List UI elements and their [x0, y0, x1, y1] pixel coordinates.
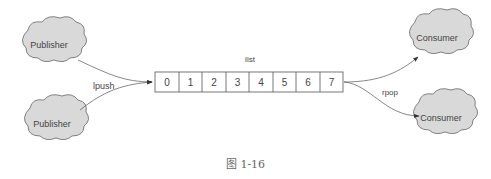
consumer-cloud-2: Consumer — [413, 89, 477, 134]
list-cell-7: 7 — [329, 77, 335, 88]
list-cell-5: 5 — [282, 77, 288, 88]
list-title: list — [245, 55, 256, 64]
lpush-label: lpush — [93, 81, 115, 91]
list-cell-4: 4 — [258, 77, 264, 88]
list-box: 0 1 2 3 4 5 6 7 — [155, 72, 343, 92]
list-cell-0: 0 — [164, 77, 170, 88]
list-cell-2: 2 — [211, 77, 217, 88]
edge-publisher1-to-list — [78, 60, 152, 82]
publisher-label-1: Publisher — [30, 40, 68, 50]
rpop-label: rpop — [382, 88, 399, 97]
consumer-label-1: Consumer — [416, 33, 458, 43]
list-cell-3: 3 — [235, 77, 241, 88]
publisher-cloud-1: Publisher — [22, 17, 86, 62]
list-cell-6: 6 — [305, 77, 311, 88]
consumer-cloud-1: Consumer — [409, 9, 473, 54]
consumer-label-2: Consumer — [420, 113, 462, 123]
edge-publisher2-to-list — [80, 82, 152, 110]
queue-diagram: Publisher Publisher Consumer Consumer lp… — [0, 0, 491, 179]
figure-caption: 图 1-16 — [0, 155, 491, 171]
edge-list-to-consumer1 — [344, 57, 418, 82]
list-cell-1: 1 — [188, 77, 194, 88]
publisher-cloud-2: Publisher — [24, 95, 88, 140]
publisher-label-2: Publisher — [33, 119, 71, 129]
